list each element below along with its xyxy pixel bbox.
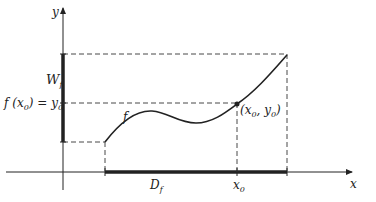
curve-label: f xyxy=(122,110,130,124)
function-curve xyxy=(105,55,287,142)
point-label: (x0, y0) xyxy=(240,103,281,119)
x-axis-label: x xyxy=(350,177,357,191)
y-axis-label: y xyxy=(51,5,59,19)
fx0-label: f (x0) = y0 xyxy=(3,96,63,112)
point-x0-y0 xyxy=(235,102,240,107)
x0-label: x0 xyxy=(233,178,245,194)
function-diagram: y x Wf f (x0) = y0 f (x0, y0) Df x0 xyxy=(0,0,376,202)
domain-label: Df xyxy=(149,178,165,194)
